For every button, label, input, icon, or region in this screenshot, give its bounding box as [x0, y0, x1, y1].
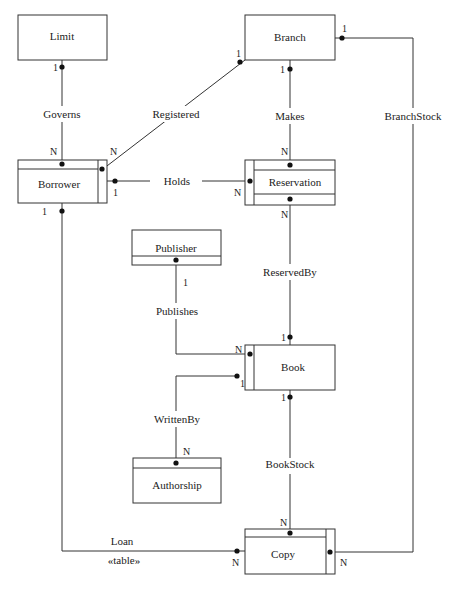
loan-label: Loan: [111, 535, 134, 547]
reservedby-label: ReservedBy: [263, 266, 317, 278]
writtenby-label: WrittenBy: [154, 413, 200, 425]
entity-book[interactable]: Book: [245, 345, 335, 390]
makes-label: Makes: [275, 110, 304, 122]
holds-from-card: 1: [113, 187, 118, 198]
writtenby-from-card: 1: [240, 378, 245, 389]
governs-from-card: 1: [53, 62, 58, 73]
loan-to-card: N: [232, 557, 239, 568]
authorship-label: Authorship: [152, 479, 202, 491]
bookstock-from-card: 1: [281, 392, 286, 403]
governs-to-card: N: [50, 146, 57, 157]
governs-label: Governs: [43, 108, 80, 120]
holds-to-card: N: [234, 187, 241, 198]
makes-to-card: N: [281, 146, 288, 157]
branchstock-label: BranchStock: [385, 110, 442, 122]
limit-label: Limit: [50, 30, 74, 42]
bookstock-to-card: N: [280, 517, 287, 528]
branchstock-to-card: N: [340, 557, 347, 568]
branchstock-from-card: 1: [342, 23, 347, 34]
entity-branch[interactable]: Branch: [245, 15, 335, 60]
book-label: Book: [281, 361, 305, 373]
registered-from-card: 1: [236, 48, 241, 59]
copy-label: Copy: [271, 548, 295, 560]
borrower-label: Borrower: [38, 178, 80, 190]
er-diagram: Governs Registered Makes BranchStock Hol…: [0, 0, 451, 591]
loan-from-card: 1: [42, 206, 47, 217]
reservedby-to-card: N: [281, 209, 288, 220]
publishes-to-card: N: [235, 344, 242, 355]
publisher-label: Publisher: [155, 242, 197, 254]
registered-label: Registered: [152, 108, 200, 120]
publishes-from-card: 1: [183, 277, 188, 288]
reservation-label: Reservation: [269, 176, 322, 188]
branch-label: Branch: [274, 31, 306, 43]
reservedby-from-card: 1: [281, 332, 286, 343]
writtenby-to-card: N: [183, 446, 190, 457]
bookstock-label: BookStock: [266, 458, 315, 470]
makes-from-card: 1: [280, 64, 285, 75]
entity-copy[interactable]: Copy: [245, 529, 335, 574]
loan-stereotype: «table»: [108, 554, 140, 566]
registered-to-card: N: [110, 146, 117, 157]
connectors: [62, 38, 413, 552]
publishes-label: Publishes: [156, 305, 198, 317]
holds-label: Holds: [164, 175, 190, 187]
entity-limit[interactable]: Limit: [18, 15, 107, 60]
